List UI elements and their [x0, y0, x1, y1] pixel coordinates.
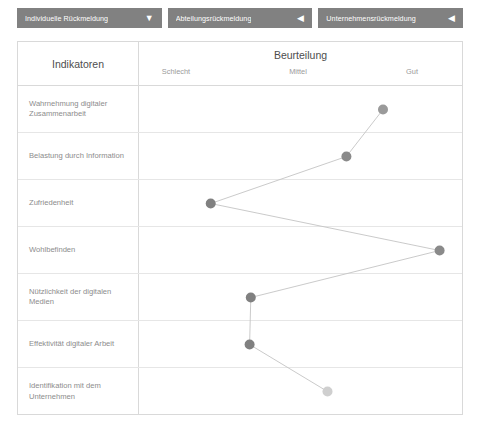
scale-label-gut: Gut — [406, 67, 418, 76]
indicator-rating-matrix: Indikatoren Beurteilung Schlecht Mittel … — [17, 41, 463, 415]
scale-label-mittel: Mittel — [289, 67, 307, 76]
table-row: Effektivität digitaler Arbeit — [18, 321, 462, 368]
chevron-left-icon: ◀ — [297, 14, 304, 23]
table-row: Wahrnehmung digitaler Zusammenarbeit — [18, 86, 462, 133]
table-row: Belastung durch Information — [18, 133, 462, 180]
row-label: Belastung durch Information — [29, 133, 134, 179]
row-label: Nützlichkeit der digitalen Medien — [29, 274, 134, 320]
table-header: Indikatoren Beurteilung Schlecht Mittel … — [18, 42, 462, 86]
table-row: Identifikation mit dem Unternehmen — [18, 368, 462, 415]
tab-abteilungsrueckmeldung[interactable]: Abteilungsrückmeldung ◀ — [168, 8, 313, 28]
tab-label: Abteilungsrückmeldung — [176, 14, 252, 23]
tab-label: Individuelle Rückmeldung — [25, 14, 108, 23]
row-label: Zufriedenheit — [29, 180, 134, 226]
scale-label-schlecht: Schlecht — [162, 67, 190, 76]
table-row: Wohlbefinden — [18, 227, 462, 274]
tab-individuelle-rueckmeldung[interactable]: Individuelle Rückmeldung ▼ — [17, 8, 162, 28]
feedback-scope-tab-bar: Individuelle Rückmeldung ▼ Abteilungsrüc… — [17, 8, 463, 28]
row-label: Identifikation mit dem Unternehmen — [29, 368, 134, 415]
chevron-left-icon: ◀ — [448, 14, 455, 23]
row-label: Wahrnehmung digitaler Zusammenarbeit — [29, 86, 134, 132]
row-label: Effektivität digitaler Arbeit — [29, 321, 134, 367]
tab-label: Unternehmensrückmeldung — [326, 14, 415, 23]
chevron-down-icon: ▼ — [145, 14, 154, 23]
table-row: Nützlichkeit der digitalen Medien — [18, 274, 462, 321]
rating-column-header: Beurteilung — [138, 49, 463, 61]
indicator-column-header: Indikatoren — [18, 42, 138, 86]
row-label: Wohlbefinden — [29, 227, 134, 273]
table-row: Zufriedenheit — [18, 180, 462, 227]
tab-unternehmensrueckmeldung[interactable]: Unternehmensrückmeldung ◀ — [318, 8, 463, 28]
